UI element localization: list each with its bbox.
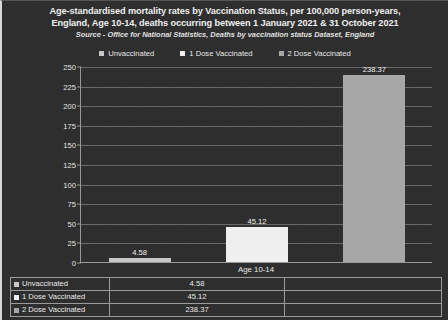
- y-axis-tick-label: 200: [24, 102, 76, 111]
- table-cell-value: 45.12: [110, 291, 285, 304]
- legend-item-label: Unvaccinated: [108, 49, 154, 58]
- legend-swatch-icon: [14, 295, 19, 300]
- legend-item: 2 Dose Vaccinated: [279, 49, 351, 58]
- y-axis-tick-label: 150: [24, 141, 76, 150]
- table-row: 1 Dose Vaccinated45.12: [11, 291, 442, 304]
- table-row: 2 Dose Vaccinated238.37: [11, 304, 442, 317]
- table-cell-series-name: Unvaccinated: [11, 278, 110, 291]
- y-axis-tick-mark: [77, 184, 81, 185]
- legend-item: Unvaccinated: [99, 49, 154, 58]
- x-axis-category-label: Age 10-14: [80, 265, 432, 274]
- table-cell-spacer: [285, 278, 442, 291]
- y-axis-tick-label: 225: [24, 82, 76, 91]
- legend-item-label: 1 Dose Vaccinated: [189, 49, 252, 58]
- y-axis-tick-mark: [77, 86, 81, 87]
- legend-swatch-icon: [279, 51, 284, 56]
- bar-unvaccinated: [109, 258, 171, 262]
- page-title-line-1: Age-standardised mortality rates by Vacc…: [16, 5, 434, 17]
- y-axis-tick-label: 125: [24, 161, 76, 170]
- chart-plot-area: 4.5845.12238.37: [80, 67, 432, 263]
- table-cell-series-name: 1 Dose Vaccinated: [11, 291, 110, 304]
- legend-swatch-icon: [14, 308, 19, 313]
- chart-data-table: Unvaccinated4.58 1 Dose Vaccinated45.12 …: [10, 277, 442, 317]
- y-axis-tick-label: 25: [24, 239, 76, 248]
- page-title-line-2: England, Age 10-14, deaths occurring bet…: [16, 17, 434, 29]
- y-axis-tick-mark: [77, 204, 81, 205]
- table-cell-spacer: [285, 291, 442, 304]
- bar-value-label: 4.58: [132, 248, 147, 257]
- bar-value-label: 45.12: [247, 217, 266, 226]
- table-row: Unvaccinated4.58: [11, 278, 442, 291]
- table-series-label: Unvaccinated: [22, 278, 68, 290]
- y-axis-tick-mark: [77, 243, 81, 244]
- chart-source-note: Source - Office for National Statistics,…: [16, 30, 434, 40]
- legend-swatch-icon: [99, 51, 104, 56]
- y-axis-tick-mark: [77, 106, 81, 107]
- bar-2-dose-vaccinated: [343, 75, 405, 262]
- y-axis-tick-label: 100: [24, 180, 76, 189]
- legend-swatch-icon: [14, 282, 19, 287]
- table-cell-value: 238.37: [110, 304, 285, 317]
- y-axis-tick-mark: [77, 145, 81, 146]
- table-cell-series-name: 2 Dose Vaccinated: [11, 304, 110, 317]
- y-axis-tick-mark: [77, 223, 81, 224]
- y-axis-tick-mark: [77, 165, 81, 166]
- legend-swatch-icon: [180, 51, 185, 56]
- y-axis-tick-mark: [77, 125, 81, 126]
- chart-screenshot: Age-standardised mortality rates by Vacc…: [0, 0, 448, 320]
- y-axis-tick-mark: [77, 263, 81, 264]
- table-cell-value: 4.58: [110, 278, 285, 291]
- table-cell-spacer: [285, 304, 442, 317]
- chart-title-block: Age-standardised mortality rates by Vacc…: [2, 5, 448, 40]
- legend-item: 1 Dose Vaccinated: [180, 49, 252, 58]
- y-axis-tick-label: 50: [24, 219, 76, 228]
- y-axis-tick-label: 250: [24, 63, 76, 72]
- y-axis-tick-label: 0: [24, 259, 76, 268]
- table-series-label: 2 Dose Vaccinated: [22, 304, 85, 316]
- chart-legend: Unvaccinated1 Dose Vaccinated2 Dose Vacc…: [2, 49, 448, 58]
- legend-item-label: 2 Dose Vaccinated: [288, 49, 351, 58]
- table-series-label: 1 Dose Vaccinated: [22, 291, 85, 303]
- bar-value-label: 238.37: [363, 65, 386, 74]
- y-axis-tick-mark: [77, 67, 81, 68]
- y-axis-tick-labels: 0255075100125150175200225250: [18, 67, 76, 263]
- bar-1-dose-vaccinated: [226, 227, 288, 262]
- y-axis-tick-label: 75: [24, 200, 76, 209]
- y-axis-tick-label: 175: [24, 121, 76, 130]
